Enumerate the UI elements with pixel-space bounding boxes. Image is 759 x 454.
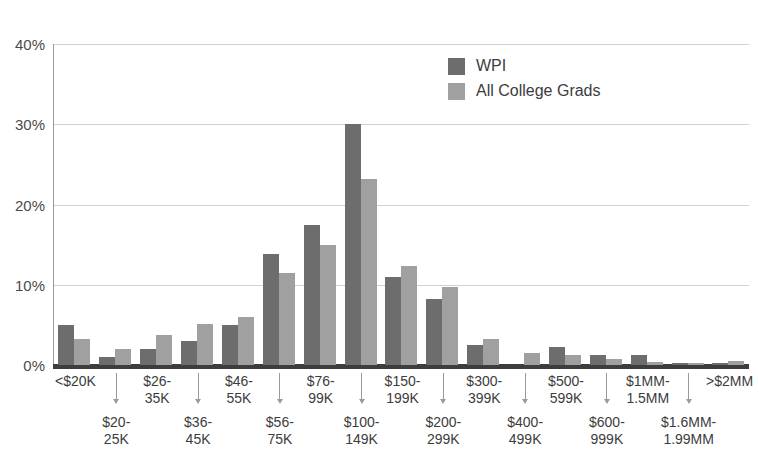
bar-wpi[interactable] — [58, 325, 74, 365]
x-axis-label-line: $400- — [494, 414, 556, 431]
bar-wpi[interactable] — [712, 363, 728, 365]
label-connector-arrow-icon — [111, 373, 121, 404]
bar-group — [299, 44, 340, 365]
x-axis-label: $100-149K — [331, 414, 393, 448]
x-axis-label-line: $500- — [535, 373, 597, 390]
x-axis-label-line: 45K — [167, 431, 229, 448]
income-distribution-bar-chart: 0%10%20%30%40% WPIAll College Grads <$20… — [0, 0, 759, 454]
bar-groups — [54, 44, 749, 365]
x-axis-label: $76-99K — [290, 373, 352, 407]
x-axis-label: $1MM-1.5MM — [617, 373, 679, 407]
bar-wpi[interactable] — [140, 349, 156, 365]
y-axis-tick-label: 20% — [15, 196, 45, 213]
bar-group — [340, 44, 381, 365]
bar-all-college-grads[interactable] — [565, 355, 581, 365]
x-axis-label: >$2MM — [699, 373, 759, 390]
bar-wpi[interactable] — [385, 277, 401, 365]
x-axis-label: <$20K — [44, 373, 106, 390]
bar-all-college-grads[interactable] — [442, 287, 458, 365]
bar-group — [667, 44, 708, 365]
bar-wpi[interactable] — [426, 299, 442, 365]
y-axis-tick-label: 10% — [15, 276, 45, 293]
x-axis-label: $500-599K — [535, 373, 597, 407]
x-axis-label-line: <$20K — [44, 373, 106, 390]
x-axis-label-line: 25K — [85, 431, 147, 448]
label-connector-arrow-icon — [193, 373, 203, 404]
bar-wpi[interactable] — [99, 357, 115, 365]
label-connector-arrow-icon — [520, 373, 530, 404]
bar-wpi[interactable] — [181, 341, 197, 365]
bar-all-college-grads[interactable] — [74, 339, 90, 365]
legend-swatch-icon — [448, 83, 465, 100]
x-axis-label: $600-999K — [576, 414, 638, 448]
bar-wpi[interactable] — [222, 325, 238, 365]
legend-label: All College Grads — [476, 82, 601, 100]
x-axis-label-line: $150- — [372, 373, 434, 390]
x-axis-label-line: 35K — [126, 390, 188, 407]
legend-item[interactable]: WPI — [448, 57, 601, 75]
x-axis-label-line: 499K — [494, 431, 556, 448]
bar-all-college-grads[interactable] — [728, 361, 744, 365]
bar-all-college-grads[interactable] — [197, 324, 213, 365]
bar-all-college-grads[interactable] — [320, 245, 336, 365]
bar-all-college-grads[interactable] — [524, 353, 540, 365]
bar-all-college-grads[interactable] — [606, 359, 622, 365]
x-axis-label-line: $1.6MM- — [658, 414, 720, 431]
bar-group — [54, 44, 95, 365]
x-axis-label-line: $20- — [85, 414, 147, 431]
bar-wpi[interactable] — [672, 363, 688, 365]
bar-all-college-grads[interactable] — [647, 362, 663, 365]
bar-all-college-grads[interactable] — [688, 363, 704, 365]
x-axis-label: $150-199K — [372, 373, 434, 407]
x-axis-label-line: >$2MM — [699, 373, 759, 390]
legend-item[interactable]: All College Grads — [448, 82, 601, 100]
bar-all-college-grads[interactable] — [483, 339, 499, 365]
bar-all-college-grads[interactable] — [156, 335, 172, 365]
x-axis-label-line: 99K — [290, 390, 352, 407]
x-axis-label: $36-45K — [167, 414, 229, 448]
x-axis-label: $20-25K — [85, 414, 147, 448]
bar-all-college-grads[interactable] — [238, 317, 254, 365]
legend-swatch-icon — [448, 58, 465, 75]
bar-group — [177, 44, 218, 365]
label-connector-arrow-icon — [602, 373, 612, 404]
x-axis-label-line: $100- — [331, 414, 393, 431]
bar-wpi[interactable] — [263, 254, 279, 365]
plot-area: 0%10%20%30%40% — [53, 44, 749, 365]
bar-group — [258, 44, 299, 365]
bar-group — [708, 44, 749, 365]
bar-wpi[interactable] — [467, 345, 483, 365]
bar-group — [218, 44, 259, 365]
x-axis-label: $56-75K — [249, 414, 311, 448]
bar-wpi[interactable] — [345, 124, 361, 365]
bar-all-college-grads[interactable] — [115, 349, 131, 365]
bar-all-college-grads[interactable] — [401, 266, 417, 366]
bar-wpi[interactable] — [549, 347, 565, 365]
chart-legend: WPIAll College Grads — [448, 57, 601, 100]
x-axis-label: $200-299K — [412, 414, 474, 448]
x-axis-label-line: $36- — [167, 414, 229, 431]
x-axis-label: $1.6MM-1.99MM — [658, 414, 720, 448]
bar-all-college-grads[interactable] — [361, 179, 377, 365]
x-axis-label-line: 75K — [249, 431, 311, 448]
x-axis-label-line: 1.99MM — [658, 431, 720, 448]
x-axis-label: $300-399K — [453, 373, 515, 407]
x-axis-label-line: $600- — [576, 414, 638, 431]
bar-group — [381, 44, 422, 365]
x-axis-label: $26-35K — [126, 373, 188, 407]
label-connector-arrow-icon — [438, 373, 448, 404]
x-axis-label-line: $56- — [249, 414, 311, 431]
x-axis-labels: <$20K$20-25K$26-35K$36-45K$46-55K$56-75K… — [54, 370, 749, 454]
bar-wpi[interactable] — [631, 355, 647, 365]
x-axis-label-line: 1.5MM — [617, 390, 679, 407]
x-axis-label-line: 599K — [535, 390, 597, 407]
bar-all-college-grads[interactable] — [279, 273, 295, 365]
x-axis-label-line: 399K — [453, 390, 515, 407]
x-axis-label-line: $26- — [126, 373, 188, 390]
bar-wpi[interactable] — [304, 225, 320, 365]
label-connector-arrow-icon — [275, 373, 285, 404]
bar-wpi[interactable] — [590, 355, 606, 365]
label-connector-arrow-icon — [684, 373, 694, 404]
x-axis-label-line: $1MM- — [617, 373, 679, 390]
y-axis-tick-label: 40% — [15, 36, 45, 53]
